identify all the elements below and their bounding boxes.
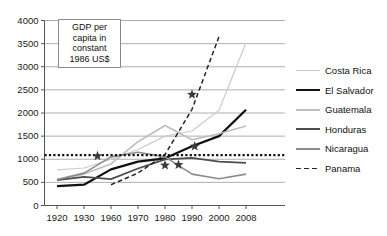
y-tick-label: 2000: [11, 108, 39, 118]
y-tick-label: 2500: [11, 85, 39, 95]
legend-line-swatch: [296, 144, 320, 154]
annotation-line: 1986 US$: [61, 54, 118, 65]
y-tick-label: 500: [11, 177, 39, 187]
annotation-textbox: GDP percapita inconstant1986 US$: [58, 19, 121, 68]
star-marker: [160, 160, 170, 169]
legend-item-honduras[interactable]: Honduras: [296, 120, 387, 140]
annotation-line: capita in: [61, 33, 118, 44]
chart-legend: Costa RicaEl SalvadorGuatemalaHondurasNi…: [296, 61, 387, 178]
legend-line-swatch: [296, 163, 320, 173]
gdp-per-capita-line-chart: 05001000150020002500300035004000 1920193…: [0, 0, 387, 236]
y-tick-label: 3500: [11, 39, 39, 49]
legend-item-label: El Salvador: [325, 85, 374, 96]
x-tick-label: 2008: [229, 213, 263, 223]
legend-item-label: Panama: [325, 163, 360, 174]
legend-item-label: Nicaragua: [325, 143, 368, 154]
series-line-nicaragua: [57, 152, 246, 179]
legend-item-label: Costa Rica: [325, 65, 371, 76]
y-tick-label: 4000: [11, 16, 39, 26]
legend-item-el-salvador[interactable]: El Salvador: [296, 81, 387, 101]
legend-item-guatemala[interactable]: Guatemala: [296, 100, 387, 120]
series-line-el-salvador: [57, 110, 246, 186]
y-tick-label: 3000: [11, 62, 39, 72]
legend-line-swatch: [296, 124, 320, 134]
annotation-line: GDP per: [61, 22, 118, 33]
legend-item-nicaragua[interactable]: Nicaragua: [296, 139, 387, 159]
series-line-honduras: [57, 158, 246, 180]
legend-line-swatch: [296, 105, 320, 115]
y-tick-label: 1000: [11, 154, 39, 164]
star-marker: [93, 151, 103, 160]
legend-item-label: Honduras: [325, 124, 366, 135]
star-marker: [187, 89, 197, 98]
y-tick-label: 0: [11, 201, 39, 211]
legend-item-panama[interactable]: Panama: [296, 159, 387, 179]
annotation-line: constant: [61, 43, 118, 54]
star-marker: [190, 141, 200, 150]
legend-item-costa-rica[interactable]: Costa Rica: [296, 61, 387, 81]
y-tick-label: 1500: [11, 131, 39, 141]
legend-line-swatch: [296, 66, 320, 76]
legend-line-swatch: [296, 85, 320, 95]
legend-item-label: Guatemala: [325, 104, 371, 115]
